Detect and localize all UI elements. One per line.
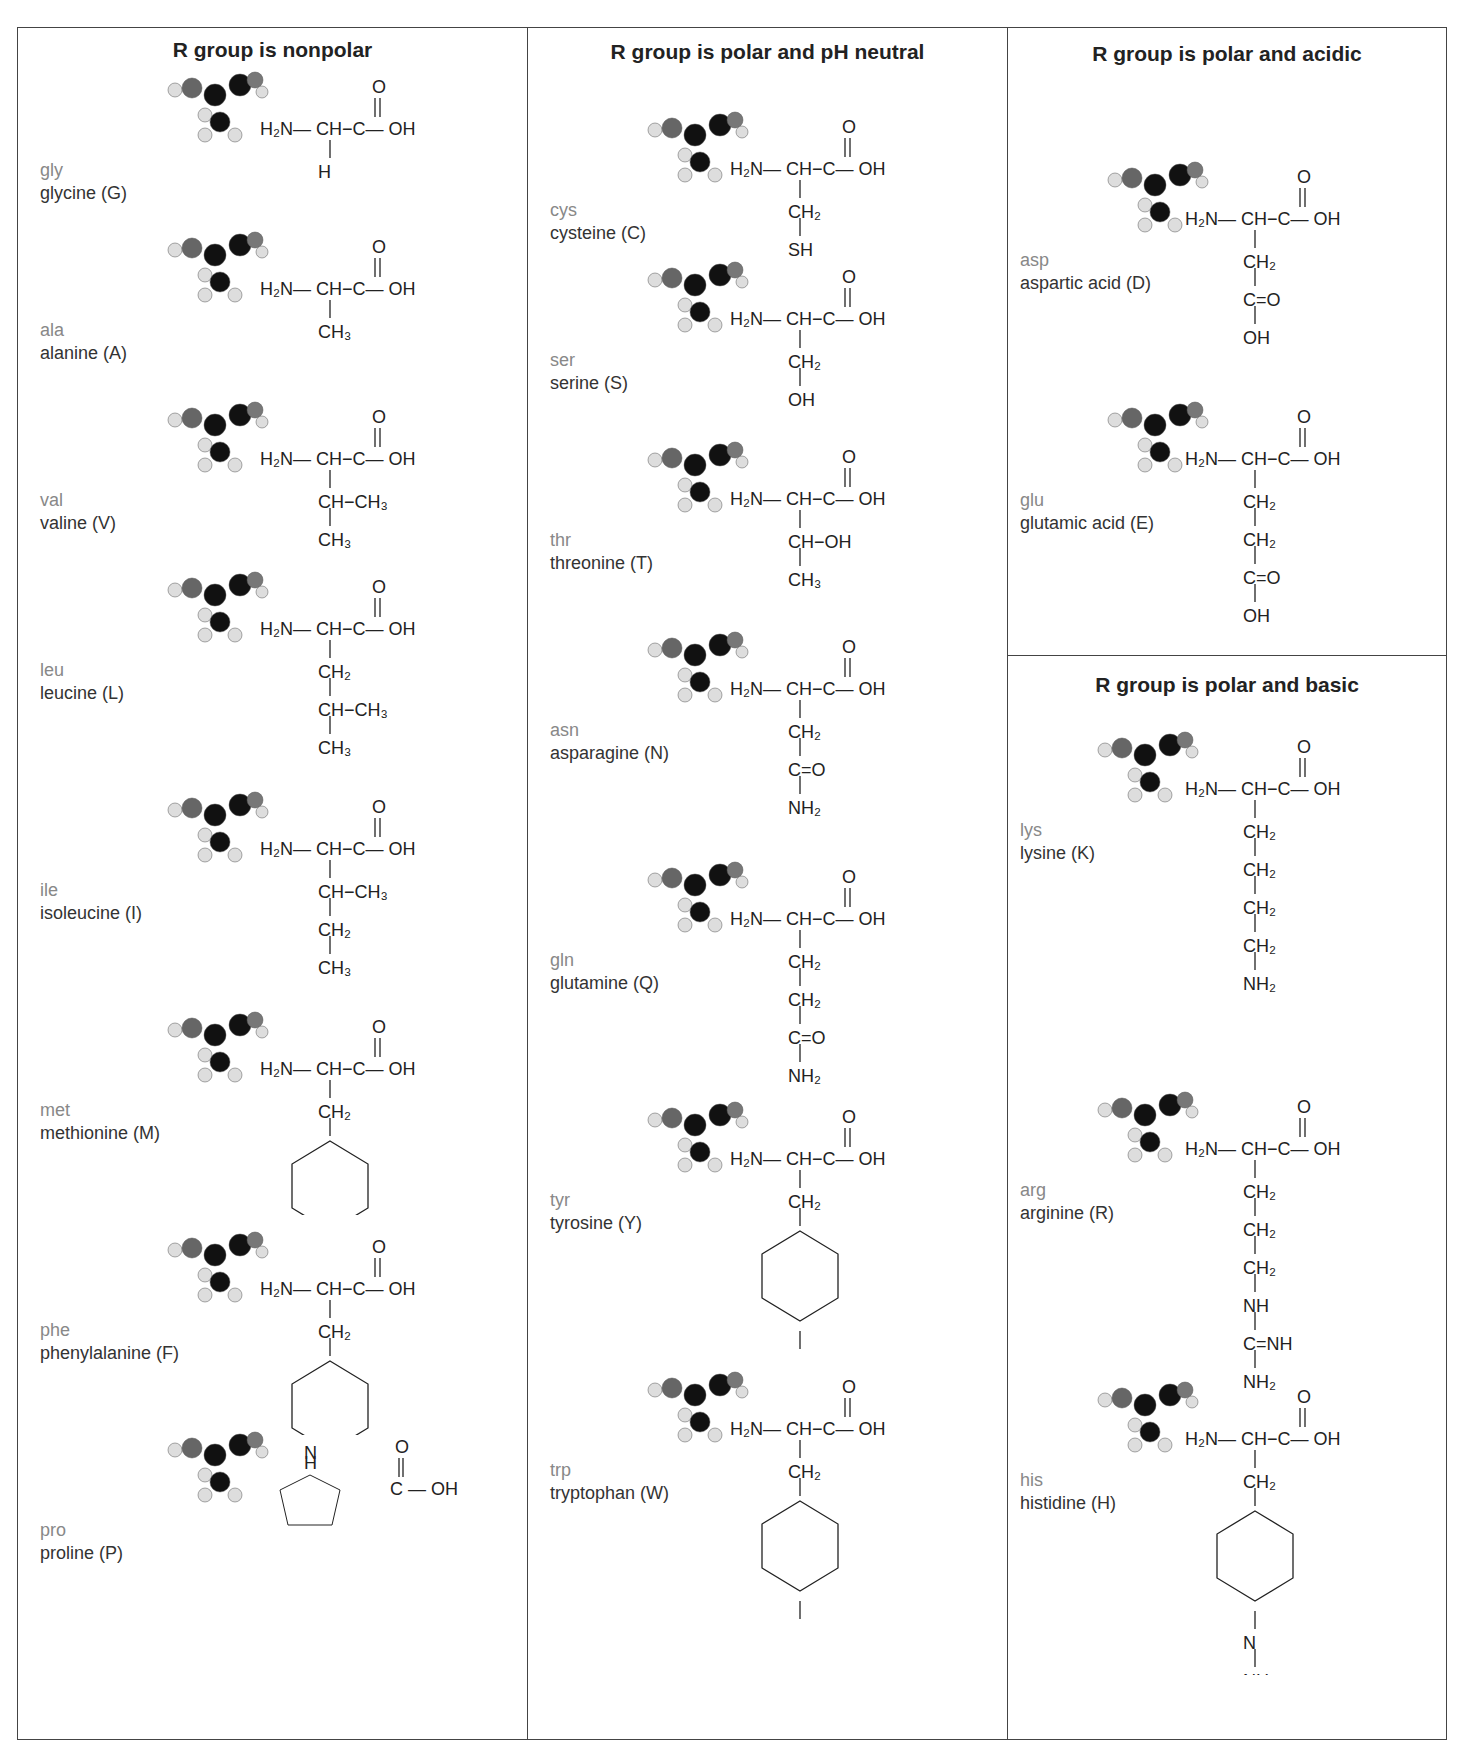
svg-text:CH₂: CH₂ xyxy=(318,1322,351,1342)
svg-text:NH: NH xyxy=(1243,1671,1269,1675)
ball-and-stick-model-icon xyxy=(160,60,270,150)
full-name: isoleucine (I) xyxy=(40,903,142,924)
full-name: threonine (T) xyxy=(550,553,653,574)
abbreviation: gln xyxy=(550,950,659,971)
svg-text:N: N xyxy=(304,1443,317,1463)
abbreviation: leu xyxy=(40,660,124,681)
svg-text:CH₂: CH₂ xyxy=(1243,1258,1276,1278)
svg-text:H₂N— CH−C— OH: H₂N— CH−C— OH xyxy=(260,1279,416,1299)
structural-formula: H₂N— CH−C— OHOCH₂C=ONH₂ xyxy=(730,635,950,880)
svg-text:H₂N— CH−C— OH: H₂N— CH−C— OH xyxy=(260,119,416,139)
amino-acid-cys: cyscysteine (C) xyxy=(550,200,646,244)
abbreviation: val xyxy=(40,490,116,511)
svg-text:NH₂: NH₂ xyxy=(788,1066,821,1086)
svg-text:CH₂: CH₂ xyxy=(1243,1220,1276,1240)
structural-formula: C — OHOHN xyxy=(260,1435,480,1590)
svg-text:CH₃: CH₃ xyxy=(318,530,351,550)
svg-text:CH₂: CH₂ xyxy=(1243,252,1276,272)
abbreviation: lys xyxy=(1020,820,1095,841)
svg-text:CH₂: CH₂ xyxy=(788,352,821,372)
benzene-ring-icon xyxy=(292,1141,368,1215)
ball-and-stick-model-icon xyxy=(160,1420,270,1510)
svg-text:O: O xyxy=(1297,737,1311,757)
svg-text:O: O xyxy=(842,637,856,657)
svg-text:H₂N— CH−C— OH: H₂N— CH−C— OH xyxy=(260,1059,416,1079)
full-name: glutamine (Q) xyxy=(550,973,659,994)
ball-and-stick-model-icon xyxy=(1090,720,1200,810)
svg-text:NH₂: NH₂ xyxy=(1243,974,1276,994)
full-name: tyrosine (Y) xyxy=(550,1213,642,1234)
structural-formula: H₂N— CH−C— OHOCH₂NNH xyxy=(1185,1385,1405,1675)
ball-and-stick-model-icon xyxy=(160,780,270,870)
svg-text:CH−OH: CH−OH xyxy=(788,532,852,552)
svg-text:OH: OH xyxy=(1243,328,1270,348)
svg-text:O: O xyxy=(842,867,856,887)
svg-text:O: O xyxy=(372,797,386,817)
svg-text:O: O xyxy=(842,1377,856,1397)
svg-text:O: O xyxy=(372,577,386,597)
svg-text:C=O: C=O xyxy=(1243,290,1281,310)
svg-text:CH₂: CH₂ xyxy=(1243,898,1276,918)
svg-text:CH₂: CH₂ xyxy=(788,722,821,742)
svg-text:O: O xyxy=(842,1107,856,1127)
amino-acid-leu: leuleucine (L) xyxy=(40,660,124,704)
svg-text:H: H xyxy=(318,162,331,182)
svg-text:C=O: C=O xyxy=(1243,568,1281,588)
svg-text:CH₂: CH₂ xyxy=(1243,1472,1276,1492)
amino-acid-thr: thrthreonine (T) xyxy=(550,530,653,574)
svg-text:O: O xyxy=(842,117,856,137)
amino-acid-lys: lyslysine (K) xyxy=(1020,820,1095,864)
svg-text:NH₂: NH₂ xyxy=(788,798,821,818)
full-name: phenylalanine (F) xyxy=(40,1343,179,1364)
svg-text:O: O xyxy=(1297,1387,1311,1407)
svg-text:CH₃: CH₃ xyxy=(318,958,351,978)
svg-text:O: O xyxy=(842,267,856,287)
ball-and-stick-model-icon xyxy=(160,220,270,310)
svg-text:OH: OH xyxy=(788,390,815,410)
phenol-ring-icon xyxy=(762,1231,838,1321)
svg-text:CH−CH₃: CH−CH₃ xyxy=(318,882,388,902)
svg-text:OH: OH xyxy=(1243,606,1270,626)
svg-text:O: O xyxy=(1297,407,1311,427)
ball-and-stick-model-icon xyxy=(160,1000,270,1090)
svg-text:C — OH: C — OH xyxy=(390,1479,458,1499)
svg-text:CH₃: CH₃ xyxy=(788,570,821,590)
full-name: serine (S) xyxy=(550,373,628,394)
abbreviation: ala xyxy=(40,320,127,341)
svg-text:CH₃: CH₃ xyxy=(318,738,351,758)
abbreviation: thr xyxy=(550,530,653,551)
structural-formula: H₂N— CH−C— OHOCH₃ xyxy=(260,235,480,390)
svg-text:CH−CH₃: CH−CH₃ xyxy=(318,492,388,512)
svg-text:H₂N— CH−C— OH: H₂N— CH−C— OH xyxy=(260,619,416,639)
structural-formula: H₂N— CH−C— OHOH xyxy=(260,75,480,230)
structural-formula: H₂N— CH−C— OHOCH₂ xyxy=(260,1235,480,1435)
abbreviation: ser xyxy=(550,350,628,371)
amino-acid-gly: glyglycine (G) xyxy=(40,160,127,204)
svg-text:CH₂: CH₂ xyxy=(1243,936,1276,956)
svg-text:H₂N— CH−C— OH: H₂N— CH−C— OH xyxy=(1185,1429,1341,1449)
svg-text:H₂N— CH−C— OH: H₂N— CH−C— OH xyxy=(260,839,416,859)
abbreviation: trp xyxy=(550,1460,669,1481)
svg-text:O: O xyxy=(372,1017,386,1037)
amino-acid-val: valvaline (V) xyxy=(40,490,116,534)
svg-text:CH₂: CH₂ xyxy=(318,1102,351,1122)
svg-text:H₂N— CH−C— OH: H₂N— CH−C— OH xyxy=(260,279,416,299)
abbreviation: asp xyxy=(1020,250,1151,271)
amino-acid-pro: proproline (P) xyxy=(40,1520,123,1564)
structural-formula: H₂N— CH−C— OHOCH₂NH xyxy=(730,1375,950,1620)
structural-formula: H₂N— CH−C— OHOCH₂ xyxy=(260,1015,480,1215)
full-name: asparagine (N) xyxy=(550,743,669,764)
benzene-ring-icon xyxy=(292,1361,368,1435)
svg-text:C=O: C=O xyxy=(788,760,826,780)
svg-text:CH₂: CH₂ xyxy=(318,920,351,940)
full-name: valine (V) xyxy=(40,513,116,534)
structural-formula: H₂N— CH−C— OHOCH₂CH₂C=OOH xyxy=(1185,405,1405,695)
abbreviation: gly xyxy=(40,160,127,181)
abbreviation: phe xyxy=(40,1320,179,1341)
svg-text:CH₂: CH₂ xyxy=(1243,822,1276,842)
ball-and-stick-model-icon xyxy=(1090,1370,1200,1460)
svg-text:CH₂: CH₂ xyxy=(788,952,821,972)
structural-formula: H₂N— CH−C— OHOCH₂CH−CH₃CH₃ xyxy=(260,575,480,820)
svg-text:H₂N— CH−C— OH: H₂N— CH−C— OH xyxy=(730,909,886,929)
abbreviation: ile xyxy=(40,880,142,901)
